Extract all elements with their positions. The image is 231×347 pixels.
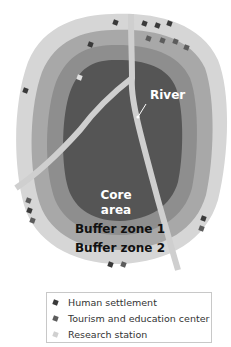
river-label: River (150, 88, 185, 102)
legend-item-human-settlement: Human settlement (53, 295, 157, 309)
core-area-label-line2: area (96, 203, 136, 217)
legend: Human settlement Tourism and education c… (46, 292, 212, 343)
tourism-center-icon (52, 315, 58, 321)
zoning-map (0, 0, 231, 280)
research-station-icon (52, 331, 58, 337)
legend-item-research-station: Research station (53, 327, 147, 341)
legend-item-tourism-center: Tourism and education center (53, 311, 209, 325)
buffer-zone-1-label: Buffer zone 1 (70, 222, 170, 236)
reserve-zoning-diagram: River Core area Buffer zone 1 Buffer zon… (0, 0, 231, 280)
settlement-icon (52, 299, 58, 305)
core-area-label-line1: Core (96, 188, 136, 202)
buffer-zone-2-label: Buffer zone 2 (70, 241, 170, 255)
river-pointer-dot (136, 115, 139, 118)
